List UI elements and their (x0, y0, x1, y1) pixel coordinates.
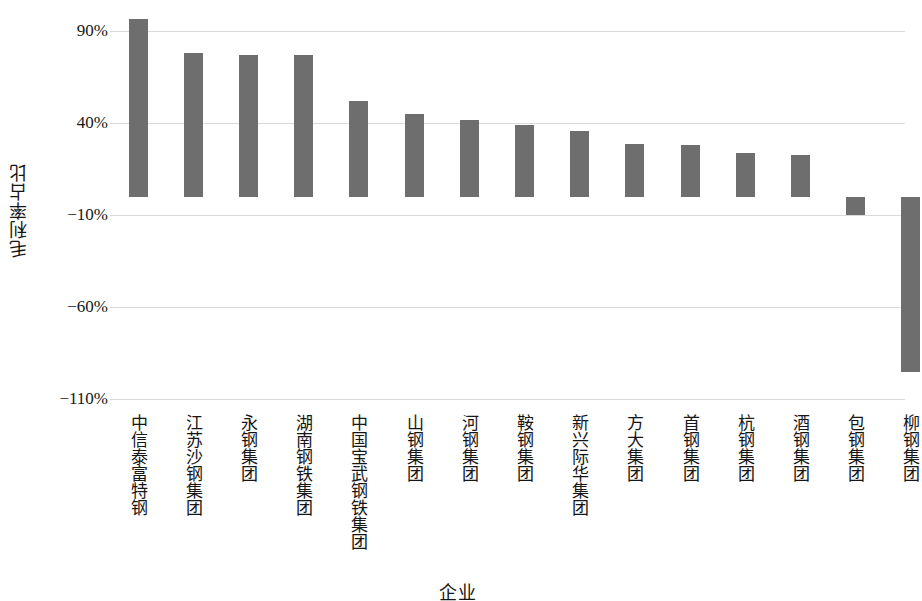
x-tick-label-text: 河钢集团 (458, 414, 479, 482)
x-tick-label-text: 中信泰富特钢 (127, 414, 148, 516)
x-tick-label: 中信泰富特钢 (127, 414, 149, 520)
x-tick-label: 江苏沙钢集团 (182, 414, 204, 520)
bar (349, 101, 368, 197)
gridline (110, 31, 905, 32)
x-tick-label-text: 中国宝武钢铁集团 (348, 414, 369, 550)
x-tick-label-text: 新兴际华集团 (569, 414, 590, 516)
y-tick-label: 90% (10, 21, 108, 41)
x-tick-label: 包钢集团 (845, 414, 867, 486)
x-tick-label: 湖南钢铁集团 (293, 414, 315, 520)
x-tick-label-text: 鞍钢集团 (513, 414, 534, 482)
x-tick-label: 柳钢集团 (900, 414, 922, 486)
bar (515, 125, 534, 197)
y-tick-label: 40% (10, 113, 108, 133)
bar (846, 197, 865, 215)
x-tick-label-text: 山钢集团 (403, 414, 424, 482)
x-tick-label: 河钢集团 (458, 414, 480, 486)
x-tick-label: 方大集团 (624, 414, 646, 486)
bar (239, 55, 258, 197)
x-tick-label-text: 酒钢集团 (789, 414, 810, 482)
x-axis-title: 企业 (0, 578, 915, 601)
bar (294, 55, 313, 197)
bar (405, 114, 424, 197)
x-tick-label-text: 方大集团 (624, 414, 645, 482)
x-tick-label-text: 江苏沙钢集团 (182, 414, 203, 516)
y-tick-label: −10% (10, 205, 108, 225)
x-tick-label: 杭钢集团 (734, 414, 756, 486)
gridline (110, 215, 905, 216)
y-tick-label: −110% (10, 389, 108, 409)
plot-area (110, 0, 905, 410)
x-tick-label-text: 永钢集团 (237, 414, 258, 482)
x-tick-label-text: 湖南钢铁集团 (293, 414, 314, 516)
x-tick-label: 山钢集团 (403, 414, 425, 486)
bar (625, 144, 644, 197)
x-tick-label: 首钢集团 (679, 414, 701, 486)
gridline (110, 123, 905, 124)
bar (736, 153, 755, 197)
bar (570, 131, 589, 197)
bar (184, 53, 203, 197)
bar (129, 19, 148, 197)
bar (460, 120, 479, 197)
gridline (110, 307, 905, 308)
x-tick-label-text: 杭钢集团 (734, 414, 755, 482)
x-tick-label: 新兴际华集团 (569, 414, 591, 520)
y-axis-tick-labels: 90%40%−10%−60%−110% (0, 0, 108, 410)
x-tick-label: 鞍钢集团 (513, 414, 535, 486)
x-tick-label-text: 包钢集团 (845, 414, 866, 482)
x-tick-label: 中国宝武钢铁集团 (348, 414, 370, 554)
bar (901, 197, 920, 372)
x-tick-label-text: 柳钢集团 (900, 414, 921, 482)
x-tick-label: 永钢集团 (237, 414, 259, 486)
x-tick-label: 酒钢集团 (789, 414, 811, 486)
x-tick-label-text: 首钢集团 (679, 414, 700, 482)
bar (791, 155, 810, 197)
gridline (110, 399, 905, 400)
x-axis-tick-labels: 中信泰富特钢江苏沙钢集团永钢集团湖南钢铁集团中国宝武钢铁集团山钢集团河钢集团鞍钢… (110, 414, 905, 579)
y-tick-label: −60% (10, 297, 108, 317)
bar (681, 145, 700, 197)
